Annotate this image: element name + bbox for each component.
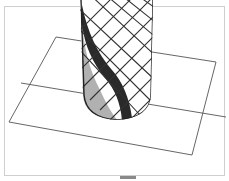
3d-scene xyxy=(0,0,229,181)
lattice-tube xyxy=(70,0,165,125)
figure-caption xyxy=(120,176,136,179)
